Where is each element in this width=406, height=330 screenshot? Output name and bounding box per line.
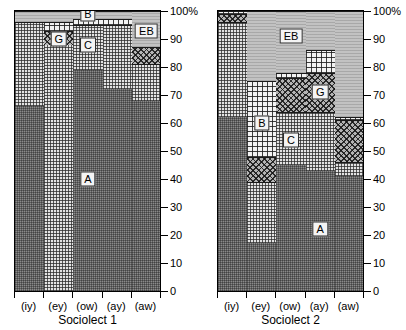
bar-segment-eb — [335, 11, 364, 117]
y-tick-label: 20 — [373, 230, 385, 241]
y-tick-mark — [161, 95, 168, 96]
x-tick-mark — [102, 292, 103, 298]
panel-bottom-rule — [217, 291, 364, 292]
y-tick-mark — [364, 67, 371, 68]
x-tick-label: (iy) — [21, 300, 36, 312]
stacked-bar-chart-figure: ACGBEB 0102030405060708090100% (iy)(ey)(… — [0, 0, 406, 330]
x-tick-mark — [72, 292, 73, 298]
bar-segment-c — [306, 112, 335, 171]
x-tick-mark — [334, 292, 335, 298]
segment-label-g: G — [51, 32, 68, 47]
y-tick-mark — [161, 39, 168, 40]
segment-label-eb: EB — [135, 23, 158, 38]
bar-segment-a — [15, 106, 44, 291]
y-tick-label: 80 — [373, 62, 385, 73]
y-tick-label: 60 — [373, 118, 385, 129]
x-tick-mark — [131, 292, 132, 298]
y-tick-label: 20 — [170, 230, 182, 241]
bar-segment-c — [247, 182, 276, 244]
bar-segment-eb — [103, 11, 132, 19]
bar-segment-c — [44, 45, 73, 291]
y-tick-mark — [364, 179, 371, 180]
y-tick-mark — [364, 39, 371, 40]
y-tick-label: 50 — [373, 146, 385, 157]
y-tick-mark — [161, 123, 168, 124]
x-tick-label: (ay) — [107, 300, 126, 312]
panel-sociolect-1: ACGBEB 0102030405060708090100% (iy)(ey)(… — [0, 0, 203, 330]
bar-segment-c — [218, 22, 247, 117]
bar-column — [15, 11, 45, 291]
bar-segment-b — [44, 22, 73, 30]
y-tick-label: 60 — [170, 118, 182, 129]
x-tick-mark — [160, 292, 161, 298]
plot-area-sociolect-1: ACGBEB — [14, 11, 161, 291]
x-tick-mark — [217, 292, 218, 298]
y-tick-label: 40 — [373, 174, 385, 185]
segment-label-g: G — [312, 85, 329, 100]
y-tick-mark — [161, 263, 168, 264]
segment-label-a: A — [313, 222, 328, 237]
y-tick-label: 0 — [170, 286, 176, 297]
x-tick-label: (aw) — [135, 300, 156, 312]
y-tick-mark — [364, 207, 371, 208]
y-tick-label: 10 — [373, 258, 385, 269]
x-tick-label: (ey) — [48, 300, 67, 312]
y-tick-label: 70 — [170, 90, 182, 101]
bar-segment-a — [335, 176, 364, 291]
x-tick-mark — [305, 292, 306, 298]
plot-area-sociolect-2: ACGBEB — [217, 11, 364, 291]
bar-segment-c — [132, 64, 161, 100]
bar-segment-eb — [15, 11, 44, 22]
y-tick-label: 70 — [373, 90, 385, 101]
bar-segment-g — [218, 14, 247, 22]
x-tick-mark — [43, 292, 44, 298]
y-tick-label: 30 — [373, 202, 385, 213]
bar-segment-g — [276, 78, 305, 112]
y-tick-mark — [364, 235, 371, 236]
y-tick-label: 80 — [170, 62, 182, 73]
x-tick-mark — [14, 292, 15, 298]
bar-segment-c — [335, 162, 364, 176]
segment-label-c: C — [80, 37, 96, 52]
panel-sociolect-2: ACGBEB 0102030405060708090100% (iy)(ey)(… — [203, 0, 406, 330]
y-tick-label: 40 — [170, 174, 182, 185]
x-tick-mark — [275, 292, 276, 298]
bar-segment-c — [15, 22, 44, 106]
bar-segment-eb — [247, 11, 276, 81]
panel-bottom-rule — [14, 291, 161, 292]
segment-label-b: B — [254, 116, 269, 131]
bar-column — [276, 11, 306, 291]
y-tick-label: 90 — [170, 34, 182, 45]
x-tick-label: (aw) — [338, 300, 359, 312]
bar-segment-eb — [44, 11, 73, 22]
y-tick-mark — [364, 263, 371, 264]
y-tick-mark — [161, 207, 168, 208]
y-tick-label: 90 — [373, 34, 385, 45]
y-tick-label: 100% — [170, 6, 198, 17]
bar-segment-a — [132, 101, 161, 291]
bar-segment-b — [276, 73, 305, 79]
bar-segment-a — [247, 243, 276, 291]
x-tick-mark — [246, 292, 247, 298]
y-tick-mark — [364, 123, 371, 124]
x-tick-label: (ey) — [251, 300, 270, 312]
segment-label-b: B — [80, 11, 95, 21]
bar-segment-g — [247, 157, 276, 182]
plot-columns-sociolect-1: ACGBEB — [15, 11, 161, 291]
y-tick-mark — [161, 235, 168, 236]
segment-label-a: A — [80, 172, 95, 187]
bar-segment-a — [276, 165, 305, 291]
bar-segment-b — [306, 50, 335, 72]
x-tick-mark — [363, 292, 364, 298]
y-tick-mark — [364, 291, 371, 292]
panel-title-sociolect-2: Sociolect 2 — [217, 314, 364, 327]
y-tick-mark — [364, 11, 371, 12]
segment-label-eb: EB — [280, 29, 303, 44]
y-tick-mark — [161, 67, 168, 68]
bar-column — [44, 11, 74, 291]
y-tick-mark — [161, 179, 168, 180]
bar-segment-b — [103, 19, 132, 25]
bar-column — [218, 11, 248, 291]
bar-segment-eb — [306, 11, 335, 50]
y-tick-label: 50 — [170, 146, 182, 157]
